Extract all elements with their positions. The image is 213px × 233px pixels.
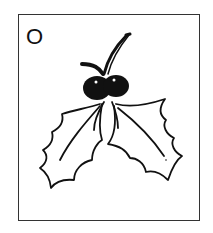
holly-icon (0, 0, 213, 233)
berry-right (103, 75, 129, 97)
